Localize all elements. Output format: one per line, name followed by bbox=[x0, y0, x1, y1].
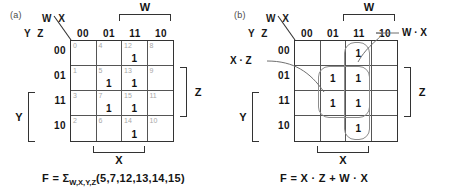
panel-a-bracket-y bbox=[28, 92, 35, 142]
kmap-cell: 10 bbox=[148, 116, 174, 141]
annotation-label-x-dot-z: X · Z bbox=[230, 55, 252, 66]
kmap-cell-index: 8 bbox=[150, 41, 154, 50]
kmap-cell-index: 0 bbox=[73, 41, 77, 50]
kmap-cell: 151 bbox=[122, 91, 148, 116]
kmap-cell-value: 1 bbox=[122, 104, 147, 114]
panel-a-row-header-01: 01 bbox=[44, 70, 66, 81]
panel-a-kmap-grid: 0412181511319371151112614110 bbox=[70, 40, 174, 142]
kmap-cell: 121 bbox=[122, 41, 148, 66]
kmap-cell: 9 bbox=[148, 66, 174, 91]
kmap-panel-b: (b) W X Y Z 00 01 11 10 00 01 11 10 W Y … bbox=[224, 0, 449, 193]
kmap-cell: 1 bbox=[71, 66, 97, 91]
kmap-cell-index: 11 bbox=[150, 91, 157, 100]
kmap-cell-index: 9 bbox=[150, 66, 154, 75]
kmap-cell: 141 bbox=[122, 116, 148, 141]
panel-a-row-header-10: 10 bbox=[44, 120, 66, 131]
panel-a-equation: F = ΣW,X,Y,Z(5,7,12,13,14,15) bbox=[42, 172, 185, 187]
panel-a-bracket-x bbox=[93, 146, 145, 153]
panel-a-equation-prefix: F = Σ bbox=[42, 172, 69, 184]
kmap-cell-index: 15 bbox=[124, 91, 132, 100]
panel-a-col-header-11: 11 bbox=[122, 28, 148, 39]
panel-a-bracket-x-label: X bbox=[93, 154, 145, 166]
kmap-cell: 8 bbox=[148, 41, 174, 66]
kmap-cell: 2 bbox=[71, 116, 97, 141]
kmap-cell-value: 1 bbox=[122, 130, 147, 140]
kmap-cell-index: 2 bbox=[73, 116, 77, 125]
panel-a-col-header-00: 00 bbox=[70, 28, 96, 39]
kmap-cell-value: 1 bbox=[122, 79, 147, 89]
kmap-cell-index: 13 bbox=[124, 66, 132, 75]
kmap-cell: 51 bbox=[97, 66, 123, 91]
panel-a-col-header-01: 01 bbox=[96, 28, 122, 39]
kmap-cell: 71 bbox=[97, 91, 123, 116]
panel-a-row-header-00: 00 bbox=[44, 45, 66, 56]
panel-a-bracket-z bbox=[180, 67, 187, 117]
kmap-cell-index: 14 bbox=[124, 116, 132, 125]
panel-a-col-header-10: 10 bbox=[148, 28, 174, 39]
kmap-cell: 6 bbox=[97, 116, 123, 141]
panel-a-bracket-y-label: Y bbox=[12, 111, 26, 123]
panel-a-bracket-w bbox=[119, 14, 171, 21]
kmap-cell-index: 10 bbox=[150, 116, 158, 125]
kmap-panel-a: (a) W X Y Z 00 01 11 10 00 01 11 10 W Y … bbox=[0, 0, 225, 193]
kmap-cell: 11 bbox=[148, 91, 174, 116]
panel-a-equation-subscript: W,X,Y,Z bbox=[69, 178, 96, 187]
kmap-cell-index: 6 bbox=[99, 116, 103, 125]
kmap-cell-index: 4 bbox=[99, 41, 103, 50]
kmap-cell: 4 bbox=[97, 41, 123, 66]
kmap-cell-value: 1 bbox=[97, 104, 122, 114]
kmap-cell-index: 1 bbox=[73, 66, 77, 75]
panel-a-bracket-w-label: W bbox=[119, 1, 171, 13]
kmap-cell: 3 bbox=[71, 91, 97, 116]
annotation-label-w-dot-x: W · X bbox=[402, 27, 427, 38]
kmap-cell-index: 12 bbox=[124, 41, 132, 50]
kmap-cell-index: 3 bbox=[73, 91, 77, 100]
panel-b-equation-prefix: F = X · Z + W · X bbox=[280, 172, 368, 184]
figure-root: (a) W X Y Z 00 01 11 10 00 01 11 10 W Y … bbox=[0, 0, 449, 193]
kmap-cell-value: 1 bbox=[97, 79, 122, 89]
panel-b-equation: F = X · Z + W · X bbox=[280, 172, 368, 184]
panel-a-row-header-11: 11 bbox=[44, 95, 66, 106]
panel-a-bracket-z-label: Z bbox=[191, 86, 205, 98]
kmap-cell-index: 7 bbox=[99, 91, 103, 100]
kmap-cell-index: 5 bbox=[99, 66, 103, 75]
panel-a-equation-suffix: (5,7,12,13,14,15) bbox=[96, 172, 185, 184]
kmap-cell-value: 1 bbox=[122, 54, 147, 64]
kmap-cell: 131 bbox=[122, 66, 148, 91]
kmap-cell: 0 bbox=[71, 41, 97, 66]
